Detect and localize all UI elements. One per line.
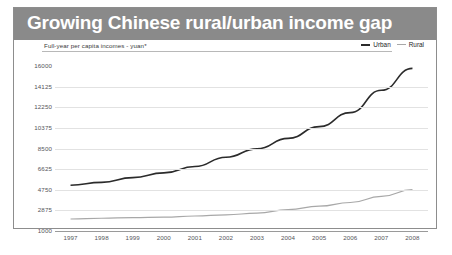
chart-frame: Growing Chinese rural/urban income gap F… xyxy=(13,7,437,229)
series-line-rural xyxy=(71,190,413,219)
x-axis-tick-label: 2001 xyxy=(179,234,210,248)
y-axis-tick-label: 2875 xyxy=(18,206,52,213)
y-axis-tick-label: 8500 xyxy=(18,145,52,152)
x-axis-tick-label: 2003 xyxy=(241,234,272,248)
grid-line xyxy=(55,128,428,129)
grid-line xyxy=(55,169,428,170)
x-axis-tick-label: 2005 xyxy=(304,234,335,248)
grid-line xyxy=(55,149,428,150)
y-axis: 1600014125122501037585006625475028751000 xyxy=(16,40,52,230)
y-axis-tick-label: 14125 xyxy=(18,83,52,90)
chart-title-bar: Growing Chinese rural/urban income gap xyxy=(14,8,436,40)
y-axis-tick-label: 6625 xyxy=(18,165,52,172)
x-axis-tick-label: 2000 xyxy=(148,234,179,248)
y-axis-tick-label: 16000 xyxy=(18,62,52,69)
x-axis-tick-label: 1998 xyxy=(86,234,117,248)
y-axis-tick-label: 12250 xyxy=(18,103,52,110)
x-axis-tick-label: 1997 xyxy=(55,234,86,248)
y-axis-tick-label: 10375 xyxy=(18,124,52,131)
x-axis-tick-label: 2002 xyxy=(210,234,241,248)
x-axis-tick-label: 2004 xyxy=(273,234,304,248)
grid-line xyxy=(55,210,428,211)
grid-lines xyxy=(55,40,428,230)
series-lines xyxy=(55,40,428,230)
x-axis-tick-label: 2007 xyxy=(366,234,397,248)
plot-area: Full-year per capita incomes - yuan* Urb… xyxy=(14,40,436,230)
y-axis-tick-label: 4750 xyxy=(18,186,52,193)
x-axis-line xyxy=(55,231,428,232)
x-axis-tick-label: 2008 xyxy=(397,234,428,248)
grid-line xyxy=(55,190,428,191)
x-axis-tick-label: 2006 xyxy=(335,234,366,248)
page-title: Growing Chinese rural/urban income gap xyxy=(27,12,392,34)
x-axis-tick-label: 1999 xyxy=(117,234,148,248)
grid-line xyxy=(55,87,428,88)
grid-line xyxy=(55,107,428,108)
x-axis-labels: 1997199819992000200120022003200420052006… xyxy=(55,234,428,248)
y-axis-tick-label: 1000 xyxy=(18,227,52,234)
